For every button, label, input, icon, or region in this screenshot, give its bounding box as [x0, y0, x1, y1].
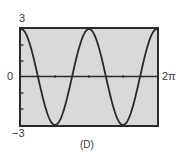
y-max-label: 3 — [19, 13, 25, 24]
x-min-label: 0 — [7, 71, 13, 82]
y-min-label: −3 — [12, 128, 25, 139]
figure-caption: (D) — [80, 139, 94, 150]
x-max-label: 2π — [162, 71, 176, 82]
graph-plot — [0, 0, 183, 156]
